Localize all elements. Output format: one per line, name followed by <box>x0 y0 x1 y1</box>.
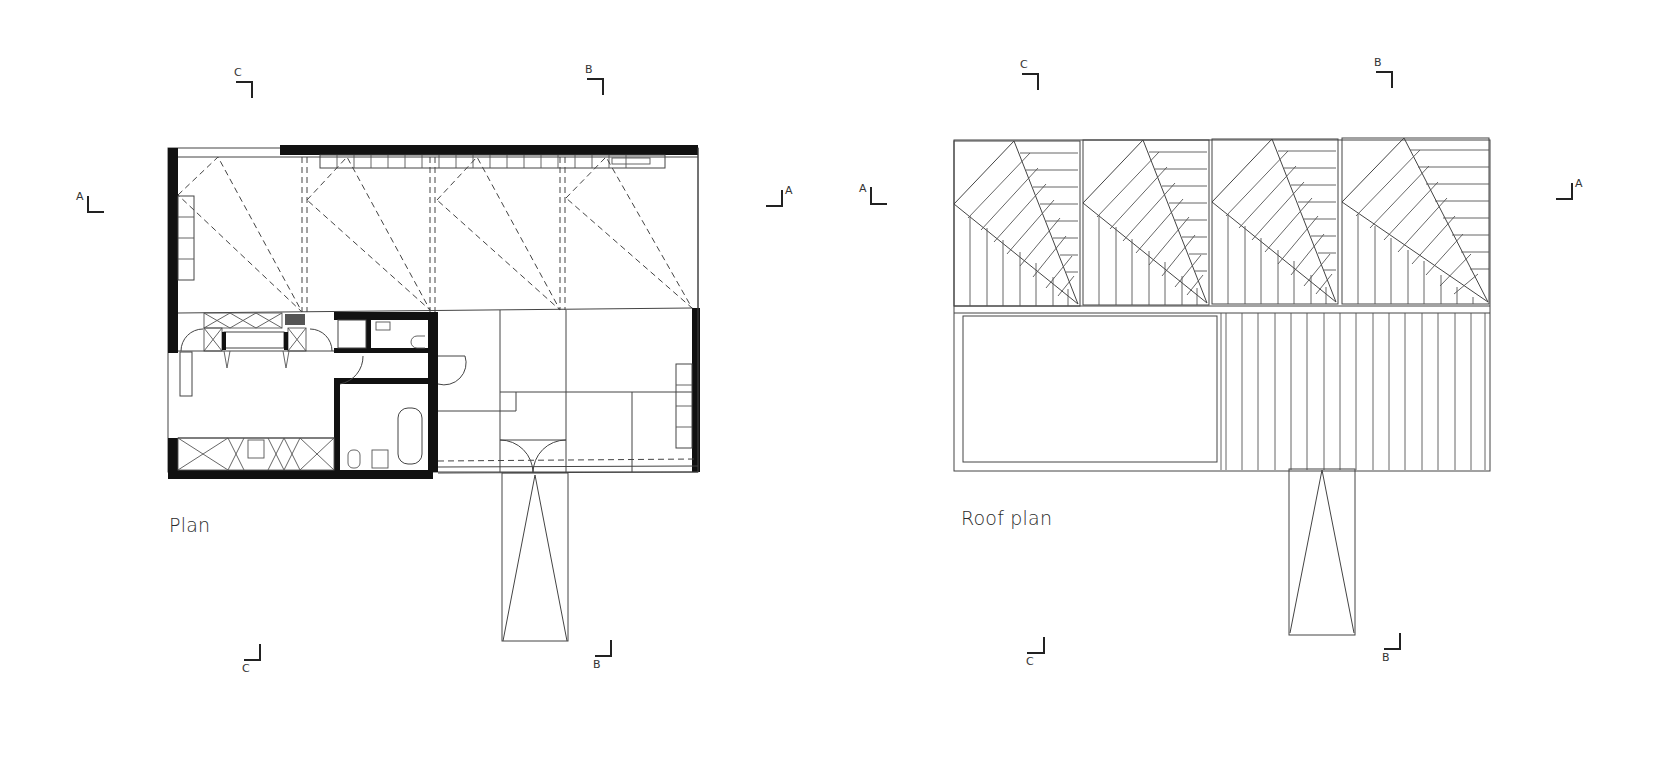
roof-entrance-ramp <box>1289 469 1355 635</box>
ribbed-roof-area <box>1221 313 1485 470</box>
plan-section-b-top-label: B <box>585 63 593 76</box>
wc-wall-divider <box>366 320 371 350</box>
plan-section-b-bottom-label: B <box>593 658 601 671</box>
wall-east <box>692 308 700 472</box>
roof-section-b-bottom-label: B <box>1382 651 1390 664</box>
skylight-projection <box>178 157 692 312</box>
roof-bay-3 <box>1212 139 1338 304</box>
plan-section-c-top-label: C <box>234 66 242 79</box>
wall-north <box>280 145 698 155</box>
plan-section-c-bottom-label: C <box>242 662 250 675</box>
flat-roof-area <box>963 316 1217 462</box>
roof-section-a-right-label: A <box>1575 177 1583 190</box>
roof-bay-4 <box>1342 138 1489 304</box>
wall-south <box>168 470 433 479</box>
roof-section-b-top-label: B <box>1374 56 1382 69</box>
roof-plan <box>954 138 1490 635</box>
roof-section-c-bottom-label: C <box>1026 655 1034 668</box>
bath-wall-top <box>334 378 438 384</box>
stove-hatched <box>285 314 305 325</box>
plan-section-a-right-label: A <box>785 184 793 197</box>
wall-west-upper <box>168 148 178 353</box>
drawing-canvas <box>0 0 1660 776</box>
plan-caption: Plan <box>169 514 210 536</box>
entrance-ramp <box>502 473 568 641</box>
roof-section-markers <box>871 72 1572 653</box>
floor-plan <box>168 145 700 641</box>
roof-section-a-left-label: A <box>859 182 867 195</box>
roof-bay-2 <box>1083 140 1209 305</box>
roof-plan-caption: Roof plan <box>961 507 1052 529</box>
roof-section-c-top-label: C <box>1020 58 1028 71</box>
plan-section-a-left-label: A <box>76 190 84 203</box>
bath-wall-west <box>334 378 340 472</box>
wc-wall-top <box>334 312 438 320</box>
wc-wall-bottom <box>334 348 438 353</box>
kitchen-cabinets-lower <box>178 438 334 470</box>
roof-bay-1 <box>954 141 1080 306</box>
core-wall-east <box>428 312 438 472</box>
